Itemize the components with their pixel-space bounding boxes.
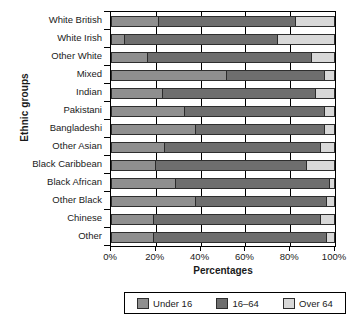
bar-segment-under-16 xyxy=(112,197,196,206)
y-axis-category-label: Chinese xyxy=(6,209,106,227)
x-axis-tick-label: 100% xyxy=(322,251,346,262)
y-axis-category-label: Black Caribbean xyxy=(6,155,106,173)
bar-segment-16-64 xyxy=(176,179,329,188)
x-axis-tick-label: 20% xyxy=(145,251,164,262)
bar-row xyxy=(111,48,335,66)
x-axis-tick-label: 0% xyxy=(103,251,117,262)
x-axis-tick-label: 60% xyxy=(235,251,254,262)
legend-label: Over 64 xyxy=(299,298,333,309)
bar-segment-16-64 xyxy=(154,233,327,242)
x-axis-tick-labels: 0%20%40%60%80%100% xyxy=(110,251,336,265)
bar-segment-16-64 xyxy=(163,89,316,98)
stacked-bar xyxy=(111,142,335,153)
legend-swatch-icon xyxy=(283,298,295,309)
stacked-bar-chart: Ethnic groups White BritishWhite IrishOt… xyxy=(0,0,358,322)
x-axis-title: Percentages xyxy=(110,265,336,276)
bar-row xyxy=(111,102,335,120)
bar-segment-over-64 xyxy=(325,125,334,134)
bar-segment-over-64 xyxy=(316,89,334,98)
y-axis-category-label: Black African xyxy=(6,173,106,191)
bar-segment-16-64 xyxy=(156,161,307,170)
bar-segment-under-16 xyxy=(112,179,176,188)
stacked-bar xyxy=(111,34,335,45)
stacked-bar xyxy=(111,16,335,27)
stacked-bar xyxy=(111,178,335,189)
bar-segment-under-16 xyxy=(112,17,159,26)
bar-segment-under-16 xyxy=(112,53,148,62)
y-axis-category-label: Pakistani xyxy=(6,101,106,119)
bar-row xyxy=(111,66,335,84)
bar-segment-over-64 xyxy=(321,143,334,152)
bar-segment-under-16 xyxy=(112,89,163,98)
y-axis-category-label: Other White xyxy=(6,47,106,65)
y-axis-category-label: Other xyxy=(6,227,106,245)
bar-row xyxy=(111,84,335,102)
bar-segment-under-16 xyxy=(112,35,125,44)
y-axis-category-label: Mixed xyxy=(6,65,106,83)
bar-segment-16-64 xyxy=(196,125,325,134)
legend-item: Under 16 xyxy=(137,298,192,309)
y-axis-category-label: Bangladeshi xyxy=(6,119,106,137)
bar-segment-over-64 xyxy=(330,179,334,188)
bar-segment-under-16 xyxy=(112,107,185,116)
bar-row xyxy=(111,12,335,30)
stacked-bar xyxy=(111,214,335,225)
bar-segment-16-64 xyxy=(154,215,321,224)
bar-segment-over-64 xyxy=(327,233,334,242)
bar-segment-under-16 xyxy=(112,161,156,170)
stacked-bar xyxy=(111,124,335,135)
bar-segment-under-16 xyxy=(112,71,227,80)
bar-segment-over-64 xyxy=(296,17,334,26)
y-axis-category-label: White British xyxy=(6,11,106,29)
bar-row xyxy=(111,174,335,192)
bar-row xyxy=(111,120,335,138)
bar-segment-over-64 xyxy=(325,107,334,116)
y-axis-category-labels: White BritishWhite IrishOther WhiteMixed… xyxy=(6,11,106,245)
x-axis-tick-label: 40% xyxy=(190,251,209,262)
legend-label: 16–64 xyxy=(232,298,258,309)
bar-row xyxy=(111,138,335,156)
bar-segment-16-64 xyxy=(125,35,278,44)
legend-swatch-icon xyxy=(216,298,228,309)
legend-swatch-icon xyxy=(137,298,149,309)
bar-segment-16-64 xyxy=(159,17,297,26)
stacked-bar xyxy=(111,52,335,63)
y-axis-category-label: Other Black xyxy=(6,191,106,209)
bar-segment-over-64 xyxy=(327,197,334,206)
y-axis-category-label: Indian xyxy=(6,83,106,101)
legend-label: Under 16 xyxy=(153,298,192,309)
bar-row xyxy=(111,30,335,48)
bar-segment-16-64 xyxy=(148,53,312,62)
y-axis-category-label: Other Asian xyxy=(6,137,106,155)
x-axis-tick-label: 80% xyxy=(280,251,299,262)
bar-row xyxy=(111,210,335,228)
bar-segment-16-64 xyxy=(227,71,325,80)
stacked-bar xyxy=(111,88,335,99)
bar-row xyxy=(111,228,335,246)
chart-legend: Under 1616–64Over 64 xyxy=(124,292,346,314)
bar-segment-over-64 xyxy=(312,53,334,62)
plot-area xyxy=(110,11,336,247)
bar-segment-16-64 xyxy=(165,143,320,152)
bar-segment-16-64 xyxy=(185,107,325,116)
bar-segment-under-16 xyxy=(112,233,154,242)
bar-row xyxy=(111,192,335,210)
stacked-bar xyxy=(111,160,335,171)
stacked-bar xyxy=(111,196,335,207)
bar-row xyxy=(111,156,335,174)
bar-segment-over-64 xyxy=(321,215,334,224)
bar-segment-under-16 xyxy=(112,143,165,152)
bar-segment-16-64 xyxy=(196,197,327,206)
stacked-bar xyxy=(111,106,335,117)
bar-segment-over-64 xyxy=(278,35,334,44)
bar-segment-over-64 xyxy=(325,71,334,80)
legend-item: Over 64 xyxy=(283,298,333,309)
bar-segment-over-64 xyxy=(307,161,334,170)
legend-item: 16–64 xyxy=(216,298,258,309)
bar-segment-under-16 xyxy=(112,125,196,134)
stacked-bar xyxy=(111,232,335,243)
stacked-bar xyxy=(111,70,335,81)
plot-inner xyxy=(111,12,335,246)
y-axis-category-label: White Irish xyxy=(6,29,106,47)
bar-segment-under-16 xyxy=(112,215,154,224)
